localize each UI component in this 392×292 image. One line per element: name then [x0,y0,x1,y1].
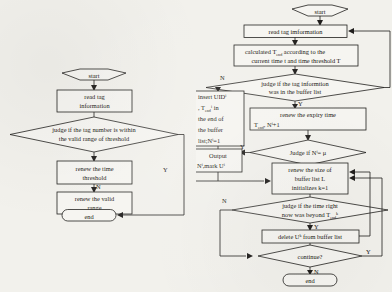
right-start-label: start [314,8,325,15]
right-insert-line5: list;Ni=1 [198,137,220,144]
right-judge-time-line1: judge if the time right [281,202,338,209]
right-flowchart: start read tag imformation calculated Te… [196,0,392,292]
right-output-node: Output Ni,mark Ui [196,149,242,172]
left-renew-range-line1: renew the valid [75,195,115,202]
right-label-yes-judgetime: Y [314,223,319,230]
right-label-no-judgetime: N [222,197,227,204]
right-calc-node: calculated Tend according to the current… [234,45,358,66]
right-end-node: end [283,274,337,286]
right-edge-output-to-size [196,172,264,181]
left-judge-line1: judge if the tag number is within [51,126,136,133]
left-flowchart: start read tag information judge if the … [0,0,196,292]
right-renew-expiry-line1: renew the expiry time [280,111,336,118]
right-judge-n-node: Judge if Ni= μ [250,140,366,165]
arrow-right-17 [348,28,354,34]
right-read-label: read tag imformation [269,28,324,35]
right-judge-buffer-line1: judge if the tag informtion [260,80,329,87]
right-insert-node: insert UIDi , Tendi in the end of the bu… [196,91,244,146]
right-label-no-buffer: N [220,74,225,81]
right-edge-continue-yes-rail [354,178,382,256]
left-start-label: start [88,72,99,79]
right-renew-expiry-node: renew the expiry time Tend, Ni+1 [250,108,366,130]
arrow-right-8 [265,178,271,184]
right-start-node: start [292,5,348,16]
right-insert-line1: insert UIDi [198,93,227,100]
right-renew-size-line3: initializes k=1 [292,184,328,191]
right-insert-line4: the buffer [198,126,224,133]
arrow-right-12 [247,253,253,259]
right-end-label: end [305,277,315,284]
left-judge-node: judge if the tag number is within the va… [10,117,178,152]
right-renew-size-line2: buffer list L [295,175,326,182]
right-edge-feedback-read [353,31,390,88]
left-read-line1: read tag [84,93,105,100]
right-edge-delete-loop [354,172,370,236]
right-label-yes-buffer: Y [298,100,303,107]
right-calc-line2: current time t and time threshold T [252,57,341,64]
right-renew-size-node: renew the size of buffer list L initiali… [272,163,348,194]
left-read-node: read tag information [57,90,132,112]
arrow-right-15 [349,175,355,181]
arrow-right-16 [349,169,355,175]
left-renew-threshold-node: renew the time threshold [57,161,132,184]
right-output-line1: Output [209,152,227,159]
right-read-node: read tag imformation [244,25,347,38]
right-output-line2: Ni,mark Ui [197,162,226,169]
left-renew-threshold-line1: renew the time [76,165,114,172]
left-read-line2: information [79,102,110,109]
right-continue-label: continue? [298,253,323,260]
screenshot-canvas: start read tag information judge if the … [0,0,392,292]
right-continue-node: continue? [258,245,362,267]
left-end-label: end [84,213,94,220]
right-delete-node: delete Uk from buffer list [262,230,359,243]
left-end-node: end [62,210,116,222]
right-label-yes-continue: Y [366,248,371,255]
right-edge-judgetime-no-rail [220,210,246,256]
left-judge-line2: the valid range of threshold [59,135,130,142]
right-delete-label: delete Uk from buffer list [278,233,342,240]
right-insert-line3: the end of [198,115,224,122]
left-label-yes: Y [163,166,168,173]
right-judge-n-label: Judge if Ni= μ [290,149,327,156]
right-renew-size-line1: renew the size of [288,166,332,173]
left-start-node: start [62,69,126,80]
right-judge-time-node: judge if the time right now was beyond T… [232,197,388,223]
left-label-no: N [96,183,101,190]
left-renew-threshold-line2: threshold [83,174,108,181]
right-judge-buffer-line2: was in the buffer list [269,88,322,95]
